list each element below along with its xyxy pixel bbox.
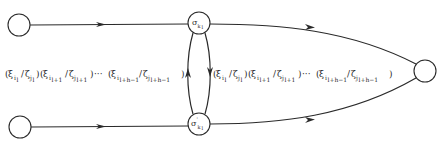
arrow-icon [305,117,315,123]
left-bottom-node [9,116,31,138]
svg-text:l+h−1: l+h−1 [151,76,171,83]
edge-left-bottom-to-sigma-bottom [31,126,188,127]
left-top-node [8,14,30,36]
edge-left-top-to-sigma-top [30,24,188,25]
svg-text:): ) [298,69,302,79]
svg-text:ξ: ξ [251,69,256,79]
edge-sigma-bottom-to-right [210,78,416,124]
automaton-diagram: σ k l σ ' k l ( ξ i l / ζ j l ) ( ξ i l+… [0,0,445,143]
svg-text:l: l [225,76,227,83]
svg-text:ξ: ξ [8,69,13,79]
svg-text:l: l [33,76,35,83]
svg-text:): ) [244,69,248,79]
svg-text:l+1: l+1 [285,76,296,83]
svg-text:): ) [36,69,40,79]
svg-text:l: l [241,76,243,83]
edge-sigma-top-to-right [210,24,416,64]
svg-text:l+1: l+1 [52,76,63,83]
svg-text:): ) [181,69,185,79]
svg-text:ξ: ξ [43,69,48,79]
svg-text:l+1: l+1 [77,76,88,83]
right-node [414,60,436,82]
arrow-icon [305,24,315,30]
svg-text:': ' [197,116,198,122]
svg-text:): ) [90,69,94,79]
svg-text:l+1: l+1 [260,76,271,83]
svg-text:l+h−1: l+h−1 [359,76,379,83]
svg-text:···: ··· [302,69,311,79]
svg-text:l: l [17,76,19,83]
svg-text:l+h−1: l+h−1 [328,76,348,83]
left-sequence-label: ( ξ i l / ζ j l ) ( ξ i l+1 / ζ j l+1 ) … [5,69,185,83]
right-sequence-label: ( ξ i l / ζ j l ) ( ξ i l+1 / ζ j l+1 ) … [213,69,393,83]
svg-text:ξ: ξ [319,69,324,79]
svg-text:l+h−1: l+h−1 [120,76,140,83]
svg-text:···: ··· [94,69,103,79]
svg-text:ξ: ξ [216,69,221,79]
svg-text:): ) [389,69,393,79]
svg-text:ξ: ξ [111,69,116,79]
